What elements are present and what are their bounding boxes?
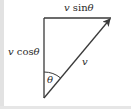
angle-theta: θ [88, 2, 94, 13]
velocity-vector-arrow [44, 19, 110, 98]
v-sin-theta-label: v sinθ [64, 3, 94, 13]
variable-v: v [82, 56, 88, 67]
angle-theta: θ [34, 46, 40, 57]
angle-theta-label: θ [47, 75, 53, 85]
v-cos-theta-label: v cosθ [8, 47, 40, 57]
function-cos: cos [14, 46, 34, 57]
hypotenuse-v-label: v [82, 57, 88, 67]
angle-theta: θ [47, 74, 53, 85]
function-sin: sin [70, 2, 88, 13]
